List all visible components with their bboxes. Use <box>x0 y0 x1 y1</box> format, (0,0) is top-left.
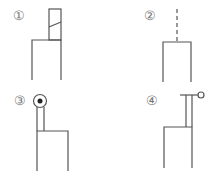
filled-dot <box>38 99 43 104</box>
base-rectangle <box>163 42 191 82</box>
diagram-canvas: ① ② ③ ④ <box>0 0 216 177</box>
base-rectangle <box>164 127 192 168</box>
panel-4-label: ④ <box>146 93 158 108</box>
panel-3: ③ <box>14 93 68 171</box>
base-rectangle <box>37 131 68 171</box>
base-rectangle <box>32 40 61 80</box>
panel-4: ④ <box>146 92 204 168</box>
panel-1-label: ① <box>13 8 25 23</box>
panel-3-label: ③ <box>14 93 26 108</box>
panel-1: ① <box>13 8 61 80</box>
panel-2: ② <box>144 8 191 82</box>
slant-line <box>49 22 61 27</box>
open-circle <box>198 92 204 98</box>
panel-2-label: ② <box>144 8 156 23</box>
